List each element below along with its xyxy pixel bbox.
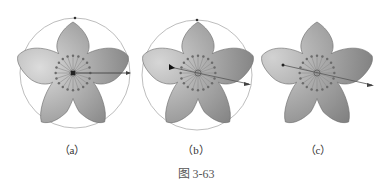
figure-label-b: （b） — [182, 141, 210, 157]
top-anchor-point — [74, 17, 77, 20]
figure-label-c: （c） — [305, 141, 332, 157]
flower-figure-a — [18, 17, 131, 128]
figure-label-a: （a） — [59, 141, 86, 157]
figure-canvas — [0, 0, 391, 189]
flower-figure-b — [142, 19, 253, 130]
figure-caption: 图 3-63 — [178, 164, 215, 182]
flower-figure-c — [262, 22, 374, 123]
top-anchor-point — [196, 19, 199, 22]
